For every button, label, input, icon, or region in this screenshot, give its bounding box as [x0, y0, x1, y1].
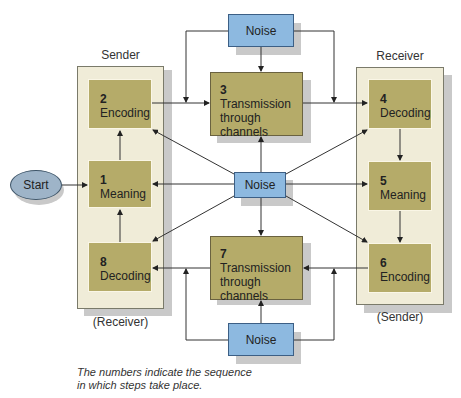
footnote-line1: The numbers indicate the sequence: [77, 366, 252, 379]
connectors: [0, 0, 461, 398]
footnote: The numbers indicate the sequence in whi…: [77, 366, 252, 392]
footnote-line2: in which steps take place.: [77, 379, 252, 392]
